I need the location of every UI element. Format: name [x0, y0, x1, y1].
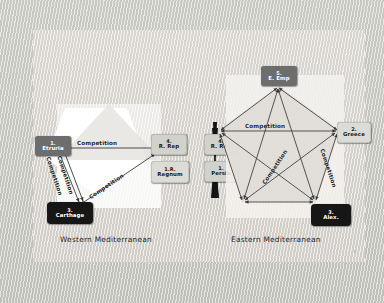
edge-label-east-horizontal: Competition: [245, 123, 285, 129]
slide-panel: 1. Etruria 4. R. Rep 1.R. Regnum 3. Cart…: [33, 30, 365, 262]
node-etruria-label: Etruria: [42, 146, 64, 152]
caption-western-mediterranean: Western Mediterranean: [60, 235, 152, 244]
eastern-diagram-graphics: [213, 30, 365, 262]
node-roman-regnum[interactable]: 1.R. Regnum: [151, 161, 189, 183]
western-mediterranean-diagram: 1. Etruria 4. R. Rep 1.R. Regnum 3. Cart…: [33, 30, 193, 262]
caption-eastern-mediterranean: Eastern Mediterranean: [231, 235, 321, 244]
slide-canvas: 1. Etruria 4. R. Rep 1.R. Regnum 3. Cart…: [0, 0, 384, 303]
node-carthage-label: Carthage: [56, 213, 85, 219]
node-greece-label: Greece: [343, 132, 365, 138]
node-roman-regnum-label: Regnum: [157, 172, 183, 178]
slide-corner-mark: 4: [353, 249, 356, 254]
node-etruria[interactable]: 1. Etruria: [35, 136, 71, 156]
node-roman-republic-west-label: R. Rep: [159, 144, 179, 150]
node-alexander[interactable]: 3. Alex.: [311, 204, 351, 226]
node-roman-republic-west[interactable]: 4. R. Rep: [151, 134, 187, 155]
eastern-mediterranean-diagram: 5. E. Emp 2. Greece 3. Alex. Competition…: [213, 30, 365, 262]
node-carthage[interactable]: 3. Carthage: [47, 202, 93, 224]
node-greece[interactable]: 2. Greece: [337, 122, 371, 143]
edge-label-west-top: Competition: [77, 140, 117, 146]
node-eastern-empire-label: E. Emp: [268, 76, 289, 82]
node-eastern-empire[interactable]: 5. E. Emp: [261, 66, 297, 86]
node-alexander-label: Alex.: [323, 215, 339, 221]
